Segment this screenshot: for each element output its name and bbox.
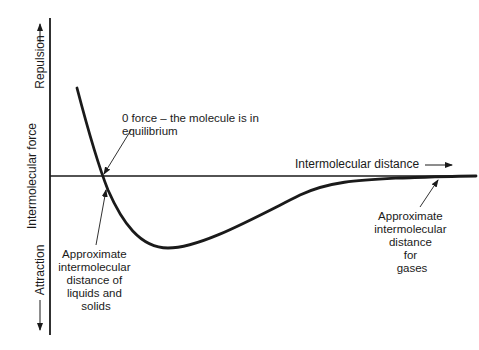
zero-force-line-2: equilibrium	[122, 125, 178, 137]
gases-pointer	[420, 180, 438, 207]
liquids-solids-line-2: intermolecular	[58, 261, 130, 273]
force-distance-diagram: Repulsion Intermolecular force Attractio…	[0, 0, 479, 350]
x-axis-title: Intermolecular distance	[295, 157, 419, 171]
liquids-solids-line-1: Approximate	[62, 248, 127, 260]
liquids-solids-pointer	[96, 190, 106, 245]
zero-force-line-1: 0 force – the molecule is in	[122, 112, 259, 124]
gases-line-3: distance	[389, 236, 432, 248]
gases-label: Approximate intermolecular distance for …	[374, 210, 449, 274]
gases-line-1: Approximate	[378, 210, 443, 222]
liquids-solids-label: Approximate intermolecular distance of l…	[58, 248, 133, 312]
repulsion-label: Repulsion	[33, 35, 47, 88]
zero-force-label: 0 force – the molecule is in equilibrium	[122, 112, 262, 137]
y-axis-title: Intermolecular force	[25, 123, 39, 229]
attraction-label: Attraction	[33, 245, 47, 296]
liquids-solids-line-4: liquids and	[67, 287, 122, 299]
gases-line-5: gases	[397, 262, 428, 274]
gases-line-4: for	[404, 249, 418, 261]
gases-line-2: intermolecular	[374, 223, 446, 235]
liquids-solids-line-3: distance of	[67, 274, 123, 286]
liquids-solids-line-5: solids	[81, 300, 111, 312]
